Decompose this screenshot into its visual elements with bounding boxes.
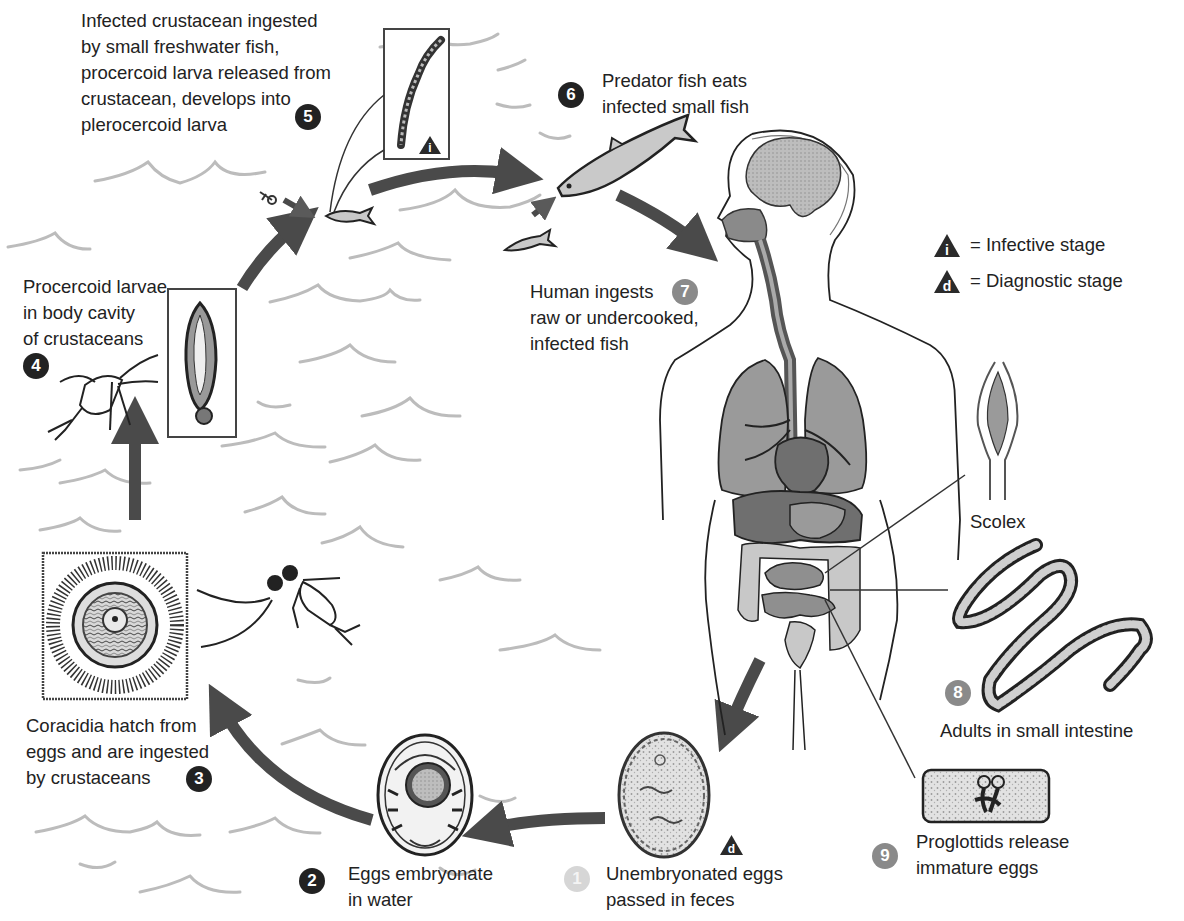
scolex-illustration — [978, 362, 1018, 500]
coracidium-inset — [43, 553, 187, 699]
stage-2-badge: 2 — [299, 868, 325, 894]
stage-6-badge: 6 — [558, 82, 584, 108]
cycle-arrows — [135, 171, 760, 830]
svg-text:d: d — [943, 278, 952, 294]
stage-4-label: Procercoid larvae in body cavity of crus… — [23, 274, 167, 352]
tiny-crustacean — [260, 192, 276, 204]
unembryonated-egg: d — [619, 733, 743, 857]
legend-infective-text: = Infective stage — [970, 234, 1105, 256]
stage-8-badge: 8 — [945, 680, 971, 706]
proglottid-illustration — [923, 770, 1049, 822]
procercoid-larva-inset — [168, 289, 236, 437]
stage-8-label: Adults in small intestine — [940, 718, 1133, 744]
svg-text:d: d — [728, 842, 735, 856]
small-fish — [505, 230, 555, 250]
diagnostic-stage-icon: d — [932, 268, 962, 294]
stage-4-badge: 4 — [23, 353, 49, 379]
stage-7-badge: 7 — [672, 279, 698, 305]
svg-text:i: i — [945, 242, 949, 258]
stage-6-label: Predator fish eats infected small fish — [602, 68, 749, 120]
adult-tapeworm — [959, 545, 1146, 705]
stage-5-label: Infected crustacean ingested by small fr… — [81, 8, 331, 138]
crustacean-copepod — [48, 355, 158, 440]
predator-fish — [558, 115, 695, 196]
stage-2-label: Eggs embryonate in water — [348, 861, 493, 913]
embryonated-egg — [378, 735, 472, 855]
stage-3-label: Coracidia hatch from eggs and are ingest… — [26, 713, 209, 791]
svg-text:i: i — [428, 141, 431, 155]
coracidium-ingestion — [197, 566, 360, 647]
stage-9-badge: 9 — [872, 843, 898, 869]
life-cycle-diagram: i — [0, 0, 1184, 921]
infective-stage-icon: i — [932, 232, 962, 258]
legend-infective: i = Infective stage — [932, 232, 1105, 258]
stage-1-label: Unembryonated eggs passed in feces — [606, 861, 783, 913]
small-infected-fish — [326, 208, 374, 224]
human-body — [660, 130, 960, 750]
stage-1-badge: 1 — [564, 866, 590, 892]
stage-5-badge: 5 — [295, 104, 321, 130]
stage-3-badge: 3 — [186, 766, 212, 792]
legend-diagnostic: d = Diagnostic stage — [932, 268, 1123, 294]
stage-9-label: Proglottids release immature eggs — [916, 829, 1069, 881]
legend-diagnostic-text: = Diagnostic stage — [970, 270, 1123, 292]
scolex-label: Scolex — [970, 509, 1026, 535]
